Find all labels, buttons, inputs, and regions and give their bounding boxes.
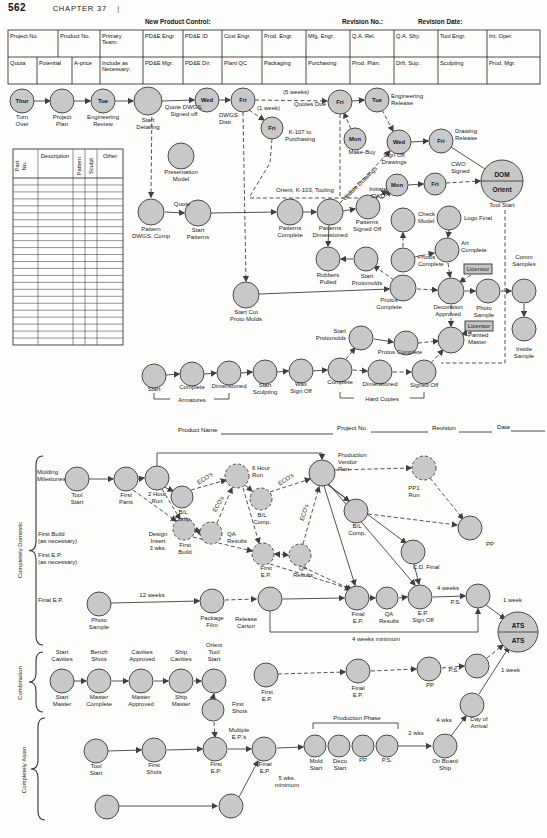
licensor-box-label: Licensor	[467, 266, 490, 272]
form-cell-sculpting: Sculpting	[440, 60, 463, 66]
node-first-ep-comb	[254, 663, 278, 687]
label-final: FinalE.P.	[351, 611, 364, 624]
label-master: MasterApproved	[128, 694, 154, 707]
label-package: PackageFilm	[200, 615, 224, 628]
node-final-ep-asian	[252, 737, 276, 761]
label-production-phase: Production Phase	[333, 715, 381, 721]
edge	[162, 100, 194, 101]
edge-dashed	[382, 110, 393, 131]
label-design: DesignInsert3 wks.	[149, 531, 168, 551]
node-quotes-due-day-label: Fri	[336, 99, 344, 105]
label-4-weeks-minimum: 4 weeks minimum	[352, 636, 400, 642]
form-title-revision-date: Revision Date:	[418, 18, 462, 25]
label-orient-k-103-tooling: Orient, K-103, Tooling	[276, 187, 334, 193]
node-check-model	[391, 208, 415, 232]
node-wax-sign-off	[289, 359, 313, 383]
label-eco-s: ECO's	[196, 471, 214, 485]
edge	[165, 212, 184, 213]
edge	[166, 374, 179, 375]
label-turn: TurnOver	[15, 114, 28, 127]
edge	[486, 605, 505, 619]
edge	[108, 750, 141, 751]
form-cell-tool-engr: Tool Engr.	[440, 33, 466, 39]
node-protos-complete-upper	[391, 248, 415, 272]
label-qa: QAResults	[293, 565, 313, 578]
edge	[448, 230, 449, 237]
node-first-shots-asian	[142, 738, 166, 762]
form-cell-pd-e-engr: PD&E Engr.	[145, 33, 176, 39]
form-cell-q-a-rel: Q.A. Rel.	[352, 33, 375, 39]
node-turn-over-day-label: Thur	[16, 98, 30, 104]
form-cell-prod-mgr: Prod. Mgr.	[489, 60, 516, 66]
form-cell-pd-e-mgr: PD&E Mgr.	[145, 60, 174, 66]
label-day-of: Day ofArrival	[470, 716, 488, 729]
node-ep-sign-off	[408, 585, 432, 609]
label-start: Start	[148, 386, 161, 392]
label-5-weeks: (5 weeks)	[283, 89, 309, 95]
label-tool-start: Tool Start	[489, 202, 515, 208]
label-pattern: PatternDWGS. Comp	[132, 226, 171, 239]
node-qa-results-1	[200, 522, 222, 544]
edge-dashed	[374, 266, 394, 280]
label-dimensioned: Dimensioned	[211, 383, 246, 389]
edge	[213, 694, 214, 698]
label-armatures: Armatures	[178, 397, 206, 403]
edge	[399, 597, 407, 598]
label-eco-s: ECO's	[211, 495, 225, 513]
edge-dashed	[431, 350, 443, 363]
label-dimensioned: Dimensioned	[362, 381, 397, 387]
section-brace	[31, 718, 45, 820]
label-pp: PP	[359, 757, 367, 763]
form-cell-product-no: Product No.	[60, 33, 90, 39]
node-photo-sample	[476, 279, 500, 303]
node-start-detailing	[134, 87, 162, 115]
edge-dashed	[278, 672, 345, 674]
node-production-vendor-run	[309, 460, 335, 486]
form-cell-int-oper: Int. Oper.	[489, 33, 513, 39]
form-cell-project-no: Project No.	[10, 33, 39, 39]
label-1-week: 1 week	[501, 667, 521, 673]
edge	[204, 373, 216, 374]
label-photo: PhotoSample	[89, 617, 110, 630]
label-5-wks: 5 wks.minimum	[275, 775, 299, 788]
node-pattern-dwgs-comp	[138, 199, 164, 225]
node-ps-comb	[465, 654, 489, 678]
edge	[239, 761, 258, 797]
edge	[154, 393, 170, 399]
parts-list-table: PartNo.DescriptionPatternSculptOther	[13, 149, 123, 345]
edge	[451, 716, 466, 736]
edge	[270, 609, 478, 632]
edge	[277, 747, 303, 748]
label-drawing: DrawingRelease	[455, 128, 478, 141]
node-project-plan	[50, 89, 74, 113]
node-initiate-cwo-day-label: Mon	[391, 182, 403, 188]
edge-dashed	[275, 554, 288, 555]
node-dom-tool-start	[65, 467, 89, 491]
edge	[259, 289, 389, 294]
node-cwo-signed-day-label: Fri	[431, 181, 439, 187]
label-hard-copies: Hard Copies	[365, 396, 398, 402]
node-start-sculpting	[253, 360, 277, 384]
label-bench: BenchShots	[90, 649, 107, 662]
node-pp-comb	[417, 657, 441, 681]
form-cell-q-a-sfty: Q.A. Sfty.	[396, 33, 420, 39]
label-2-hour: 2 HourRun	[148, 491, 166, 504]
label-start: StartProtomolds	[352, 273, 382, 286]
edge-dashed	[249, 110, 264, 120]
node-dom-bl-comp-1	[171, 486, 193, 508]
label-quote-dwgs: Quote DWGS.Signed off	[165, 104, 204, 117]
label-engineering: EngineeringReview	[87, 114, 119, 127]
label-4-wks: 4 wks	[436, 717, 451, 723]
label-multiple: MultipleE.P.'s	[229, 727, 250, 740]
label-start-cut: Start CutProto Molds	[230, 309, 262, 322]
node-drawing-release-day-label: Fri	[437, 138, 445, 144]
parts-header-part: PartNo.	[14, 160, 27, 171]
label-b-l: B/LComp.	[253, 512, 271, 525]
label-cavities: CavitiesApproved	[129, 649, 155, 662]
label-first-build: First Build(as necessary)	[38, 531, 77, 544]
node-ats-bottom-label: ATS	[512, 637, 525, 644]
label-1-week: (1 week)	[257, 105, 280, 111]
label-start: StartProtomolds	[316, 328, 347, 341]
parts-header-other: Other	[103, 153, 117, 159]
label-sign-off: Sign OffDrawings	[381, 152, 406, 165]
